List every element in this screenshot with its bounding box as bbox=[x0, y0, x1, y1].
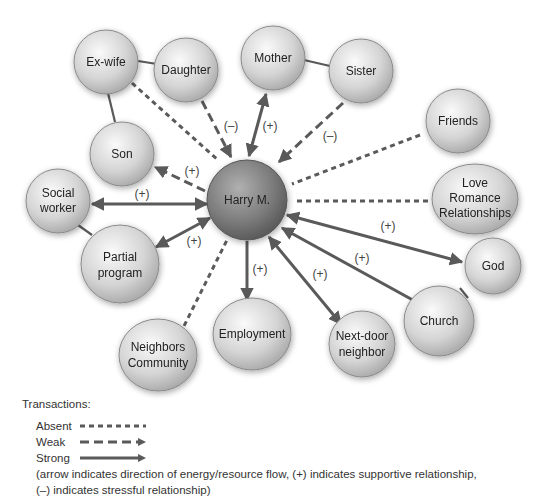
legend-row-weak: Weak bbox=[36, 434, 477, 450]
svg-text:Neighbors: Neighbors bbox=[131, 340, 186, 354]
link-exwife-son bbox=[108, 93, 115, 122]
legend-label-absent: Absent bbox=[36, 418, 78, 434]
node-nextdoor[interactable]: Next-door neighbor bbox=[329, 311, 395, 377]
svg-text:Love: Love bbox=[462, 176, 488, 190]
svg-text:Relationships: Relationships bbox=[439, 206, 511, 220]
sign-church: (+) bbox=[355, 251, 370, 265]
edge-god-strong bbox=[287, 215, 462, 262]
svg-text:Harry M.: Harry M. bbox=[224, 193, 270, 207]
svg-text:program: program bbox=[98, 266, 143, 280]
dashed-arrow-icon bbox=[78, 437, 148, 447]
node-friends[interactable]: Friends bbox=[426, 89, 490, 153]
svg-text:Romance: Romance bbox=[449, 191, 501, 205]
svg-text:Son: Son bbox=[111, 147, 132, 161]
sign-partial: (+) bbox=[187, 234, 202, 248]
sign-sister: (–) bbox=[323, 129, 338, 143]
svg-text:Next-door: Next-door bbox=[336, 329, 389, 343]
link-social-partial bbox=[78, 225, 92, 235]
sign-daughter: (–) bbox=[224, 119, 239, 133]
node-harry-center[interactable]: Harry M. bbox=[207, 160, 287, 240]
sign-son: (+) bbox=[185, 164, 200, 178]
solid-arrow-icon bbox=[78, 453, 148, 463]
sign-god: (+) bbox=[381, 219, 396, 233]
node-love[interactable]: Love Romance Relationships bbox=[432, 164, 518, 234]
legend-label-weak: Weak bbox=[36, 434, 78, 450]
svg-text:Community: Community bbox=[128, 356, 189, 370]
svg-text:Mother: Mother bbox=[254, 51, 291, 65]
sign-social: (+) bbox=[135, 187, 150, 201]
node-sister[interactable]: Sister bbox=[329, 39, 393, 103]
sign-mother: (+) bbox=[263, 119, 278, 133]
legend: Transactions: Absent Weak Strong (arrow … bbox=[22, 396, 477, 498]
legend-title: Transactions: bbox=[22, 396, 477, 412]
svg-text:Partial: Partial bbox=[103, 250, 137, 264]
node-social[interactable]: Social worker bbox=[26, 169, 90, 233]
svg-text:worker: worker bbox=[39, 201, 76, 215]
svg-text:neighbor: neighbor bbox=[339, 345, 386, 359]
nodes: Ex-wife Daughter Mother Sister Friends L… bbox=[26, 26, 521, 391]
legend-label-strong: Strong bbox=[36, 450, 78, 466]
node-employment[interactable]: Employment bbox=[213, 298, 291, 370]
edge-church-strong bbox=[282, 228, 420, 304]
svg-text:Ex-wife: Ex-wife bbox=[86, 55, 126, 69]
dotted-line-icon bbox=[78, 422, 148, 430]
legend-note-line2: (–) indicates stressful relationship) bbox=[36, 482, 477, 498]
legend-row-absent: Absent bbox=[36, 418, 477, 434]
sign-employment: (+) bbox=[253, 262, 268, 276]
svg-text:God: God bbox=[482, 259, 505, 273]
node-god[interactable]: God bbox=[465, 238, 521, 294]
link-mother-sister bbox=[304, 60, 330, 66]
svg-text:Church: Church bbox=[420, 314, 459, 328]
legend-note-line1: (arrow indicates direction of energy/res… bbox=[36, 466, 477, 482]
node-church[interactable]: Church bbox=[404, 286, 474, 356]
svg-text:Sister: Sister bbox=[346, 64, 377, 78]
svg-text:Social: Social bbox=[42, 186, 75, 200]
svg-text:Employment: Employment bbox=[219, 327, 286, 341]
node-exwife[interactable]: Ex-wife bbox=[74, 30, 138, 94]
legend-row-strong: Strong bbox=[36, 450, 477, 466]
node-partial[interactable]: Partial program bbox=[81, 225, 159, 303]
sign-nextdoor: (+) bbox=[313, 267, 328, 281]
edge-friends-absent bbox=[292, 135, 420, 184]
node-son[interactable]: Son bbox=[90, 122, 154, 186]
node-neighbors[interactable]: Neighbors Community bbox=[119, 319, 197, 391]
svg-text:Daughter: Daughter bbox=[161, 63, 210, 77]
svg-text:Friends: Friends bbox=[438, 114, 478, 128]
edge-partial-strong bbox=[156, 218, 210, 247]
node-daughter[interactable]: Daughter bbox=[154, 38, 218, 102]
node-mother[interactable]: Mother bbox=[241, 26, 305, 90]
